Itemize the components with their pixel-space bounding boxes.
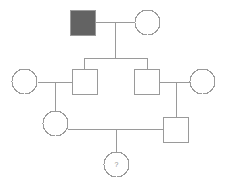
open-square-male-III-2 [163, 117, 188, 142]
pedigree-symbol-II-2 [72, 69, 97, 94]
pedigree-symbol-II-1 [12, 69, 37, 94]
open-circle-female-I-2 [135, 10, 160, 35]
pedigree-symbol-II-3 [134, 69, 159, 94]
open-square-male-II-3 [134, 69, 159, 94]
open-circle-female-II-1 [12, 69, 37, 94]
pedigree-symbol-I-2 [135, 10, 160, 35]
pedigree-chart: ? [0, 0, 228, 183]
symbol-label-IV-1: ? [115, 161, 119, 168]
pedigree-symbol-I-1 [70, 10, 95, 35]
pedigree-svg: ? [0, 0, 228, 183]
pedigree-symbol-III-2 [163, 117, 188, 142]
open-circle-female-III-1 [43, 111, 68, 136]
open-circle-female-II-4 [190, 69, 215, 94]
open-square-male-II-2 [72, 69, 97, 94]
pedigree-symbol-II-4 [190, 69, 215, 94]
filled-square-male-I-1 [70, 10, 95, 35]
pedigree-symbol-III-1 [43, 111, 68, 136]
pedigree-symbol-IV-1: ? [104, 152, 129, 177]
